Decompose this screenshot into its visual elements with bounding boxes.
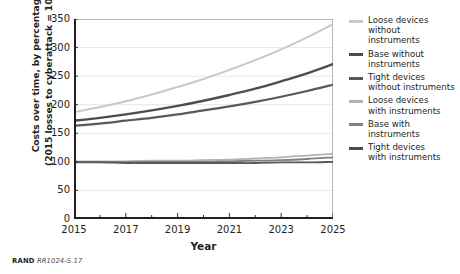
x-tick-label: 2019 [158, 224, 198, 235]
legend-item[interactable]: Base with instruments [349, 119, 460, 139]
x-axis-tick-labels: 201520172019202120232025 [74, 224, 333, 238]
chart-legend: Loose devices without instrumentsBase wi… [349, 15, 460, 166]
legend-item[interactable]: Loose devices with instruments [349, 95, 460, 115]
x-tick-label: 2025 [313, 224, 353, 235]
legend-item-label: Tight devices without instruments [368, 72, 460, 92]
line-chart-svg [74, 19, 333, 219]
legend-swatch-line-icon [349, 20, 363, 23]
y-tick-label: 50 [40, 185, 70, 195]
y-tick-label: 0 [40, 214, 70, 224]
legend-swatch-line-icon [349, 123, 363, 126]
legend-item-label: Tight devices with instruments [368, 142, 460, 162]
legend-item-label: Base with instruments [368, 119, 460, 139]
series-line-1 [74, 64, 333, 121]
legend-swatch-line-icon [349, 147, 363, 150]
series-line-0 [74, 24, 333, 112]
x-tick-label: 2021 [209, 224, 249, 235]
legend-item[interactable]: Tight devices with instruments [349, 142, 460, 162]
legend-swatch-line-icon [349, 53, 363, 56]
figure-container: Costs over time, by percentage (2015 los… [0, 0, 460, 274]
legend-swatch-line-icon [349, 77, 363, 80]
x-tick-label: 2015 [54, 224, 94, 235]
legend-item-label: Base without instruments [368, 49, 460, 69]
legend-swatch-line-icon [349, 100, 363, 103]
y-tick-label: 350 [40, 14, 70, 24]
legend-item-label: Loose devices without instruments [368, 15, 460, 46]
y-tick-label: 200 [40, 100, 70, 110]
y-tick-label: 250 [40, 71, 70, 81]
legend-item-label: Loose devices with instruments [368, 95, 460, 115]
plot-area [74, 19, 333, 219]
series-line-2 [74, 85, 333, 126]
y-axis-tick-labels: 050100150200250300350 [38, 19, 70, 219]
source-brand: RAND [12, 257, 35, 265]
x-tick-label: 2017 [106, 224, 146, 235]
source-ref: RR1024-S.17 [37, 257, 82, 265]
y-tick-label: 100 [40, 157, 70, 167]
x-tick-label: 2023 [261, 224, 301, 235]
y-tick-label: 150 [40, 128, 70, 138]
legend-item[interactable]: Base without instruments [349, 49, 460, 69]
source-note: RAND RR1024-S.17 [12, 257, 82, 265]
legend-item[interactable]: Tight devices without instruments [349, 72, 460, 92]
legend-item[interactable]: Loose devices without instruments [349, 15, 460, 46]
x-axis-title: Year [74, 240, 333, 252]
y-tick-label: 300 [40, 43, 70, 53]
